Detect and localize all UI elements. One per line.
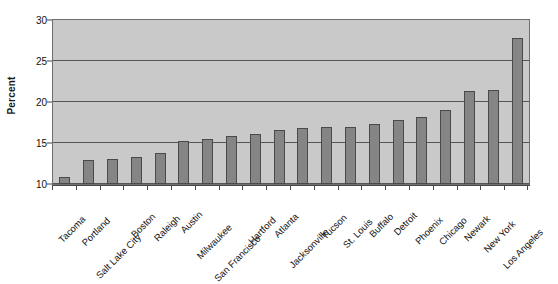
bar [345, 127, 356, 184]
y-axis-tick-label: 25 [5, 56, 47, 67]
bar [202, 139, 213, 184]
gridline [53, 183, 529, 184]
bar [274, 130, 285, 184]
bar [250, 134, 261, 184]
gridline [53, 101, 529, 102]
x-axis-category-labels: TacomaPortlandSalt Lake CityBostonRaleig… [52, 190, 558, 273]
x-axis-category-label: Portland [104, 190, 137, 223]
x-axis-category-label: Detroit [411, 190, 439, 218]
bar [297, 128, 308, 184]
y-axis-tick-label: 30 [5, 15, 47, 26]
bar [393, 120, 404, 184]
bar [178, 141, 189, 184]
y-axis-tick-labels: 1015202530 [0, 19, 47, 185]
bar [416, 117, 427, 184]
bar [83, 160, 94, 184]
bar [226, 136, 237, 184]
bar [59, 177, 70, 184]
x-axis-category-label: New York [510, 190, 546, 226]
y-axis-tick-label: 20 [5, 97, 47, 108]
bar [107, 159, 118, 184]
bar [131, 157, 142, 184]
bar [512, 38, 523, 184]
x-axis-category-label-text: Milwaukee [194, 222, 234, 262]
gridline [53, 142, 529, 143]
gridline [53, 60, 529, 61]
bar [369, 124, 380, 184]
gridline [53, 19, 529, 20]
y-axis-tick-label: 10 [5, 179, 47, 190]
bar [488, 90, 499, 184]
y-axis-tick-label: 15 [5, 138, 47, 149]
bar [321, 127, 332, 184]
bar [155, 153, 166, 184]
bar [464, 91, 475, 184]
bar [440, 110, 451, 184]
plot-area [52, 19, 530, 185]
